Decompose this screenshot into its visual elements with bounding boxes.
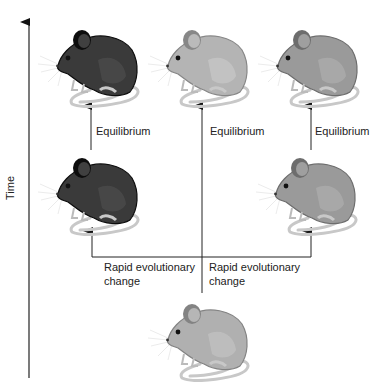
mouse-icon (148, 294, 260, 382)
time-axis-label: Time (4, 176, 16, 200)
mouse-top-right (258, 20, 370, 108)
rapid-change-label-right: Rapid evolutionary change (209, 260, 300, 288)
mouse-icon (256, 148, 368, 236)
rapid-change-left-line1: Rapid evolutionary (104, 260, 195, 274)
rapid-change-label-left: Rapid evolutionary change (104, 260, 195, 288)
punctuated-equilibrium-diagram: Time Equilibrium Equilibrium Equilibrium… (0, 0, 389, 384)
mouse-icon (38, 148, 150, 236)
mouse-top-left (38, 20, 150, 108)
mouse-icon (148, 20, 260, 108)
equilibrium-label-right: Equilibrium (315, 124, 369, 138)
mouse-icon (38, 20, 150, 108)
mouse-icon (258, 20, 370, 108)
mouse-top-center (148, 20, 260, 108)
mouse-middle-left (38, 148, 150, 236)
equilibrium-label-left: Equilibrium (96, 124, 150, 138)
rapid-change-left-line2: change (104, 274, 195, 288)
equilibrium-label-center: Equilibrium (210, 124, 264, 138)
mouse-middle-right (256, 148, 368, 236)
mouse-bottom-ancestor (148, 294, 260, 382)
rapid-change-right-line1: Rapid evolutionary (209, 260, 300, 274)
rapid-change-right-line2: change (209, 274, 300, 288)
